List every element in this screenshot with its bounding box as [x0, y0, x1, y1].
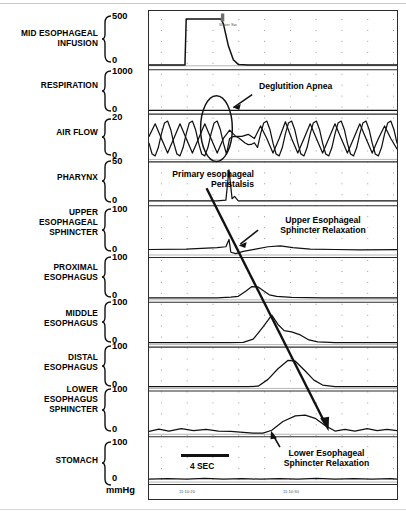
channel-label-distal-esophagus: DISTAL ESOPHAGUS [0, 352, 98, 372]
tick-hi-lower-esophagus-sphincter: 100 [112, 385, 128, 394]
time-tick-label-0: 11:10:20 [179, 489, 195, 494]
deglutition-apnea-arrow [233, 95, 252, 108]
channel-label-mid-esophageal-infusion: MID ESOPHAGEAL INFUSION [0, 28, 98, 48]
scale-bar-label: 4 SEC [190, 461, 214, 471]
channel-label-column: MID ESOPHAGEAL INFUSION 500 0 RESPIRATIO… [0, 0, 148, 514]
channel-label-air-flow: AIR FLOW [0, 127, 98, 137]
tick-hi-middle-esophagus: 100 [112, 298, 128, 307]
tick-hi-mid-esophageal-infusion: 500 [112, 12, 128, 21]
channel-label-lower-esophagus-sphincter: LOWER ESOPHAGUS SPHINCTER [0, 384, 98, 415]
channel-label-respiration: RESPIRATION [0, 80, 98, 90]
tick-lo-mid-esophageal-infusion: 0 [112, 56, 117, 65]
brace-respiration [101, 70, 112, 112]
brace-proximal-esophagus [101, 256, 112, 298]
units-label-mmhg: mmHg [106, 485, 135, 495]
tick-hi-upper-esophageal-sphincter: 100 [112, 205, 128, 214]
tick-lo-lower-esophagus-sphincter: 0 [112, 425, 117, 434]
brace-upper-esophageal-sphincter [101, 208, 112, 252]
tick-hi-distal-esophagus: 100 [112, 342, 128, 351]
channel-label-middle-esophagus: MIDDLE ESOPHAGUS [0, 308, 98, 328]
brace-distal-esophagus [101, 345, 112, 387]
channel-label-proximal-esophagus: PROXIMAL ESOPHAGUS [0, 262, 98, 282]
tick-hi-air-flow: 20 [112, 113, 122, 122]
manometry-figure: MID ESOPHAGEAL INFUSION 500 0 RESPIRATIO… [0, 0, 406, 514]
tick-hi-stomach: 100 [112, 438, 128, 447]
brace-stomach [101, 441, 112, 486]
primary-peristalsis-label: Primary esophageal Peristalsis [149, 169, 254, 190]
deglutition-apnea-ellipse [201, 96, 233, 162]
tick-hi-proximal-esophagus: 100 [112, 253, 128, 262]
primary-peristalsis-arrowhead [320, 417, 329, 431]
tracing-plot-area: 4 SEC Water Sw Deglutition Apnea Primary… [148, 10, 398, 500]
brace-pharynx [101, 160, 112, 203]
time-tick-label-1: 11:10:30 [283, 489, 299, 494]
brace-air-flow [101, 118, 112, 156]
scale-bar [181, 454, 229, 457]
brace-middle-esophagus [101, 301, 112, 343]
water-swallow-event-tick [221, 13, 224, 21]
channel-label-upper-esophageal-sphincter: UPPER ESOPHAGEAL SPHINCTER [0, 207, 98, 238]
ues-relaxation-label: Upper Esophageal Sphincter Relaxation [253, 215, 393, 236]
channel-label-pharynx: PHARYNX [0, 172, 98, 182]
channel-label-stomach: STOMACH [0, 455, 98, 465]
water-swallow-label: Water Sw [219, 22, 237, 27]
deglutition-apnea-label: Deglutition Apnea [259, 81, 332, 91]
tick-lo-stomach: 0 [112, 474, 117, 483]
brace-mid-esophageal-infusion [101, 15, 112, 63]
tick-hi-respiration: 1000 [112, 67, 133, 76]
tick-hi-pharynx: 50 [112, 157, 122, 166]
les-relaxation-label: Lower Esophageal Sphincter Relaxation [259, 448, 394, 469]
brace-lower-esophagus-sphincter [101, 388, 112, 432]
les-relaxation-arrowhead [271, 431, 277, 439]
